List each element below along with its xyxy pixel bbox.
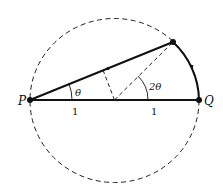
label-q: Q (204, 94, 214, 108)
angle-theta-arc (69, 84, 72, 100)
midpoint-marker (106, 67, 109, 70)
radius-to-a (115, 42, 174, 100)
point-q-dot (196, 97, 202, 103)
point-p-dot (27, 97, 33, 103)
label-theta: θ (75, 87, 81, 98)
point-a-dot (170, 39, 176, 45)
circle-diagram: P Q θ 2θ 1 1 (0, 0, 223, 195)
label-segment-right: 1 (151, 106, 157, 117)
label-p: P (17, 94, 27, 108)
angle-two-theta-arc (138, 76, 148, 100)
label-two-theta: 2θ (148, 81, 161, 92)
label-segment-left: 1 (72, 106, 78, 117)
arc-aq (173, 42, 199, 100)
perpendicular-to-chord (103, 70, 115, 100)
